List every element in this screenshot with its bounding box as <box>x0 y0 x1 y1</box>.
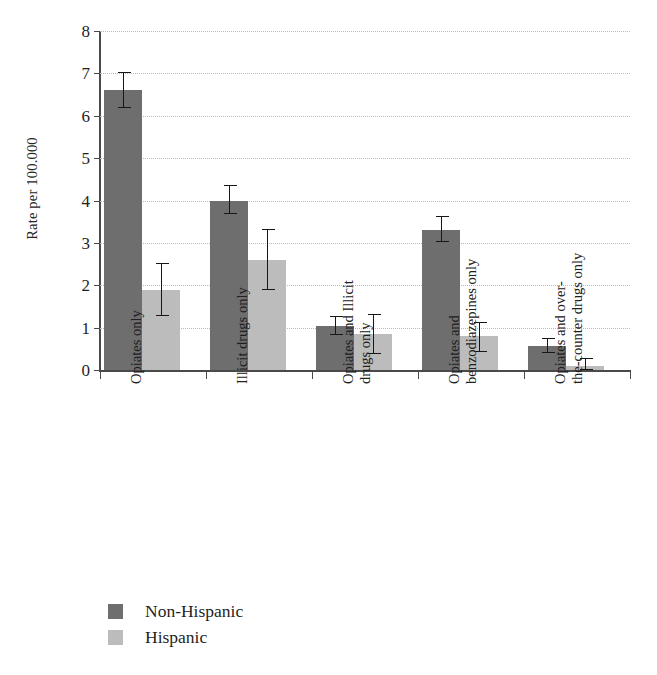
x-axis-label: Opiates and over- the-counter drugs only <box>552 253 586 384</box>
y-axis-tick-mark <box>94 243 100 244</box>
error-bar <box>267 230 268 289</box>
gridline <box>100 31 630 32</box>
y-axis-title: Rate per 100.000 <box>24 119 41 259</box>
gridline <box>100 158 630 159</box>
gridline <box>100 243 630 244</box>
x-axis-tick-mark <box>418 370 419 379</box>
y-axis-tick-label: 5 <box>82 150 91 167</box>
y-axis-tick-label: 3 <box>82 234 91 251</box>
y-axis-tick-mark <box>94 201 100 202</box>
y-axis-tick-label: 8 <box>82 23 91 40</box>
y-axis-tick-mark <box>94 158 100 159</box>
y-axis-tick-label: 7 <box>82 65 91 82</box>
y-axis-tick-mark <box>94 116 100 117</box>
y-axis-tick-mark <box>94 328 100 329</box>
y-axis-tick-label: 4 <box>82 192 91 209</box>
y-axis-tick-mark <box>94 31 100 32</box>
x-axis-tick-mark <box>100 370 101 379</box>
error-bar <box>547 339 548 352</box>
legend-swatch-hispanic <box>108 630 123 645</box>
error-bar <box>335 317 336 334</box>
x-axis-tick-mark <box>206 370 207 379</box>
y-axis-tick-label: 6 <box>82 107 91 124</box>
error-bar <box>123 73 124 107</box>
legend-swatch-non-hispanic <box>108 604 123 619</box>
y-axis-tick-label: 1 <box>82 319 91 336</box>
y-axis-tick-mark <box>94 285 100 286</box>
x-axis-label: Opiates and Illicit drugs only <box>340 280 374 384</box>
error-bar <box>161 264 162 315</box>
x-axis-label: Opiates only <box>128 310 145 384</box>
x-axis-tick-mark <box>524 370 525 379</box>
x-axis-tick-mark <box>312 370 313 379</box>
gridline <box>100 201 630 202</box>
gridline <box>100 73 630 74</box>
x-axis-tick-mark <box>630 370 631 379</box>
bar-chart: Rate per 100.000 012345678 Opiates onlyI… <box>0 0 657 675</box>
legend: Non-Hispanic Hispanic <box>108 598 243 650</box>
legend-item: Hispanic <box>108 624 243 650</box>
legend-item: Non-Hispanic <box>108 598 243 624</box>
x-axis-label: Illicit drugs only <box>234 287 251 384</box>
error-bar <box>441 217 442 240</box>
gridline <box>100 116 630 117</box>
y-axis-tick-mark <box>94 73 100 74</box>
legend-label-hispanic: Hispanic <box>145 627 207 648</box>
y-axis-tick-label: 0 <box>82 362 91 379</box>
error-bar <box>229 186 230 214</box>
legend-label-non-hispanic: Non-Hispanic <box>145 601 243 622</box>
x-axis-label: Opiates and benzodiazepines only <box>446 259 480 384</box>
y-axis-tick-label: 2 <box>82 277 91 294</box>
